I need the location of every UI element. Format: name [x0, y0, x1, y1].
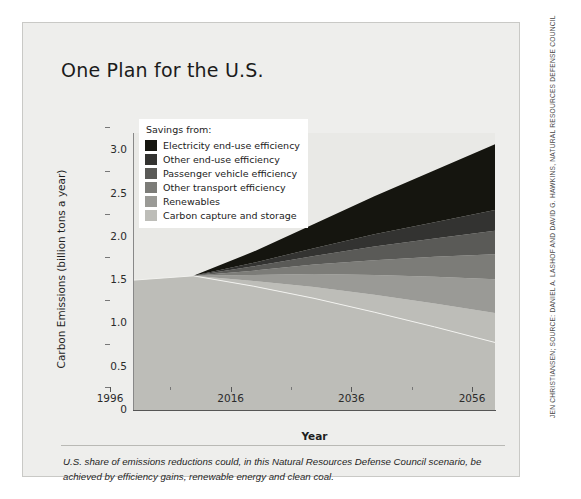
- legend-item: Electricity end-use efficiency: [145, 138, 300, 152]
- legend-item: Other transport efficiency: [145, 180, 300, 194]
- x-tick-mark-minor: [291, 387, 292, 390]
- legend-swatch-icon: [145, 210, 157, 221]
- figure-caption: U.S. share of emissions reductions could…: [63, 455, 503, 484]
- x-axis-line: [133, 410, 496, 411]
- credit-text: JEN CHRISTIANSEN; SOURCE: DANIEL A. LASH…: [549, 15, 556, 418]
- y-tick-mark: [105, 127, 110, 128]
- legend-item-label: Electricity end-use efficiency: [163, 140, 300, 151]
- y-axis-tick-labels: 00.51.01.52.02.53.0: [85, 23, 127, 499]
- legend-rows: Electricity end-use efficiencyOther end-…: [145, 138, 300, 222]
- y-tick-label: 0.5: [91, 360, 127, 372]
- y-tick-mark: [105, 300, 110, 301]
- caption-divider: [61, 445, 505, 446]
- x-tick-label: 2056: [457, 392, 487, 404]
- legend-swatch-icon: [145, 168, 157, 179]
- y-tick-label: 3.0: [91, 143, 127, 155]
- chart-legend: Savings from: Electricity end-use effici…: [139, 119, 308, 228]
- legend-item: Passenger vehicle efficiency: [145, 166, 300, 180]
- legend-item-label: Other transport efficiency: [163, 182, 286, 193]
- x-tick-mark: [110, 387, 111, 392]
- y-axis-title: Carbon Emissions (billion tons a year): [55, 139, 67, 399]
- x-tick-mark: [472, 387, 473, 392]
- x-tick-mark: [231, 387, 232, 392]
- legend-item: Renewables: [145, 194, 300, 208]
- legend-item-label: Other end-use efficiency: [163, 154, 280, 165]
- legend-swatch-icon: [145, 140, 157, 151]
- y-tick-label: 1.5: [91, 273, 127, 285]
- y-tick-label: 1.0: [91, 316, 127, 328]
- legend-swatch-icon: [145, 196, 157, 207]
- y-axis-line: [133, 133, 134, 411]
- x-tick-mark-minor: [412, 387, 413, 390]
- x-tick-mark: [351, 387, 352, 392]
- figure-card: One Plan for the U.S. 00.51.01.52.02.53.…: [22, 22, 520, 477]
- y-tick-mark: [105, 214, 110, 215]
- y-tick-label: 2.0: [91, 230, 127, 242]
- y-tick-label: 0: [91, 403, 127, 415]
- x-tick-label: 2016: [216, 392, 246, 404]
- legend-item-label: Renewables: [163, 196, 220, 207]
- legend-item: Other end-use efficiency: [145, 152, 300, 166]
- legend-item-label: Carbon capture and storage: [163, 210, 297, 221]
- credit-line: JEN CHRISTIANSEN; SOURCE: DANIEL A. LASH…: [538, 18, 552, 418]
- x-axis-title: Year: [133, 430, 496, 442]
- legend-swatch-icon: [145, 182, 157, 193]
- y-tick-mark: [105, 344, 110, 345]
- x-tick-label: 2036: [336, 392, 366, 404]
- y-tick-mark: [105, 171, 110, 172]
- y-tick-label: 2.5: [91, 187, 127, 199]
- x-tick-mark-minor: [170, 387, 171, 390]
- legend-item: Carbon capture and storage: [145, 208, 300, 222]
- x-tick-label: 1996: [95, 392, 125, 404]
- legend-swatch-icon: [145, 154, 157, 165]
- legend-title: Savings from:: [146, 124, 300, 135]
- legend-item-label: Passenger vehicle efficiency: [163, 168, 297, 179]
- y-tick-mark: [105, 257, 110, 258]
